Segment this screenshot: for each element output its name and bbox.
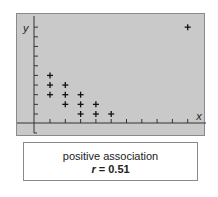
data-point-plus-marker xyxy=(47,72,53,78)
correlation-coefficient: r = 0.51 xyxy=(24,163,197,176)
data-point-plus-marker xyxy=(62,101,68,107)
data-point-plus-marker xyxy=(78,111,84,117)
data-point-plus-marker xyxy=(47,82,53,88)
scatter-plot-panel: xy xyxy=(16,13,205,136)
scatter-plot: xy xyxy=(17,14,206,137)
association-label: positive association xyxy=(24,150,197,163)
data-point-plus-marker xyxy=(78,92,84,98)
data-point-plus-marker xyxy=(93,101,99,107)
data-point-plus-marker xyxy=(93,111,99,117)
data-point-plus-marker xyxy=(108,111,114,117)
equals-sign: = xyxy=(96,163,109,175)
caption-box: positive association r = 0.51 xyxy=(23,142,198,181)
data-point-plus-marker xyxy=(78,101,84,107)
y-axis-label: y xyxy=(22,22,30,34)
data-point-plus-marker xyxy=(62,92,68,98)
x-axis-label: x xyxy=(195,110,202,122)
data-point-plus-marker xyxy=(62,82,68,88)
data-point-plus-marker xyxy=(185,24,191,30)
r-value: 0.51 xyxy=(108,163,129,175)
data-point-plus-marker xyxy=(47,92,53,98)
